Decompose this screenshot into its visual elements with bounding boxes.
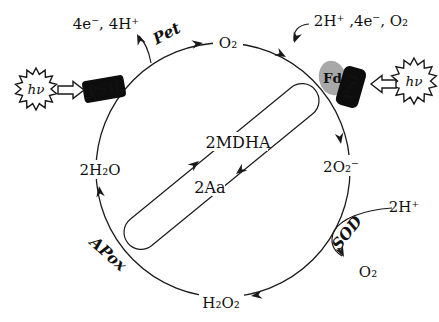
hydrogen-peroxide-label: H₂O₂ <box>202 294 239 312</box>
main-cycle-circle <box>96 43 350 297</box>
ascorbate-mdha-loop <box>117 77 326 257</box>
inputs-top-right-label: 2H⁺ ,4e⁻, O₂ <box>314 12 408 30</box>
ferredoxin-label: Fd <box>323 70 343 86</box>
psii-complex: PSII <box>81 75 126 104</box>
arrowhead-electrons-out <box>133 32 145 46</box>
arrowhead-to-mdha <box>188 158 202 172</box>
superoxide-label: 2O₂⁻ <box>323 158 359 176</box>
ascorbate-label: 2Aa <box>194 178 226 197</box>
electrons-protons-out-label: 4e⁻, 4H⁺ <box>73 15 139 33</box>
photon-right-label: hν <box>406 73 423 89</box>
water-water-cycle-diagram: PSI PSII 4e⁻, 4H⁺ Pet O₂ 2H⁺ ,4e⁻, O₂ hν… <box>0 0 439 322</box>
water-label: 2H₂O <box>80 161 121 179</box>
oxygen-right-label: O₂ <box>359 263 377 281</box>
arrowhead-to-ascorbate <box>233 164 247 178</box>
diagram-canvas: PSI PSII 4e⁻, 4H⁺ Pet O₂ 2H⁺ ,4e⁻, O₂ hν… <box>0 0 439 322</box>
arrowhead-to-oxygen-top <box>192 39 204 49</box>
block-arrow-right-icon <box>58 82 84 99</box>
photon-left-label: hν <box>28 81 45 97</box>
oxygen-top-label: O₂ <box>219 34 237 52</box>
mdha-label: 2MDHA <box>206 133 271 152</box>
arrowhead-to-superoxide <box>335 132 345 144</box>
pet-label: Pet <box>149 18 184 49</box>
arrowhead-inputs-in <box>290 31 302 44</box>
block-arrow-left-icon <box>371 76 396 93</box>
protons-right-label: 2H⁺ <box>389 198 420 216</box>
arrowhead-to-water <box>95 185 105 197</box>
